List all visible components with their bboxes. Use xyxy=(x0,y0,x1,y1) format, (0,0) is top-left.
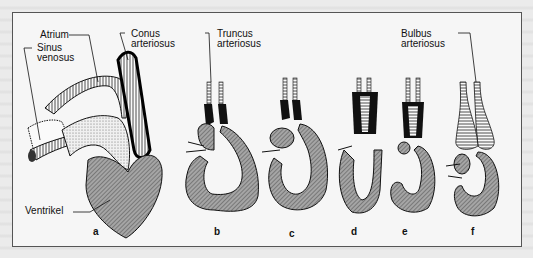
label-bulbus-line2: arteriosus xyxy=(401,39,445,49)
stage-e-heart xyxy=(391,78,435,212)
stage-b-heart xyxy=(186,82,259,211)
stage-f-heart xyxy=(446,82,499,216)
stage-label-a: a xyxy=(93,226,99,237)
stage-d-heart xyxy=(338,78,382,213)
stage-label-f: f xyxy=(471,226,474,237)
label-conus-line2: arteriosus xyxy=(131,39,175,49)
heart-development-illustration xyxy=(0,0,533,258)
stage-label-c: c xyxy=(289,228,295,239)
label-sinus-venosus-line2: venosus xyxy=(37,53,74,63)
stage-c-heart xyxy=(262,78,328,210)
label-ventrikel: Ventrikel xyxy=(25,206,63,216)
stage-label-e: e xyxy=(402,226,408,237)
label-truncus-line2: arteriosus xyxy=(217,39,261,49)
stage-label-b: b xyxy=(214,226,220,237)
label-atrium: Atrium xyxy=(40,30,69,40)
stage-label-d: d xyxy=(351,226,357,237)
